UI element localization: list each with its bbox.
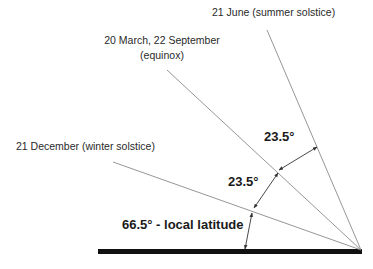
sun-angle-diagram: 21 June (summer solstice) 20 March, 22 S… xyxy=(0,0,373,269)
summer-solstice-label: 21 June (summer solstice) xyxy=(212,6,335,18)
equinox-label-line1: 20 March, 22 September xyxy=(98,34,226,46)
equinox-label-line2: (equinox) xyxy=(98,49,226,61)
upper-angle-arrow xyxy=(279,147,317,170)
lower-angle-arrow xyxy=(245,213,252,249)
upper-angle-label: 23.5° xyxy=(264,130,295,144)
winter-solstice-label: 21 December (winter solstice) xyxy=(16,140,155,152)
ground-surface xyxy=(98,249,362,254)
latitude-angle-label: 66.5° - local latitude xyxy=(122,218,244,232)
middle-angle-label: 23.5° xyxy=(228,175,259,189)
